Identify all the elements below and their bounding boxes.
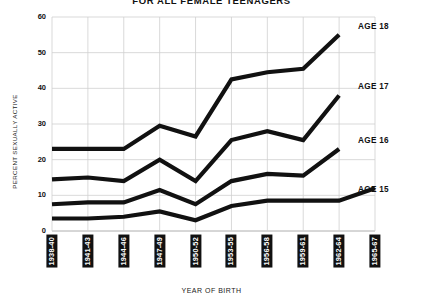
y-tick-label: 60 — [22, 13, 46, 21]
x-tick-label: 1947-49 — [154, 235, 165, 268]
x-tick-label: 1959-61 — [297, 235, 308, 268]
x-tick-label: 1941-43 — [82, 235, 93, 268]
y-tick-label: 30 — [22, 120, 46, 128]
y-tick-label: 40 — [22, 84, 46, 92]
y-tick-label: 20 — [22, 156, 46, 164]
x-tick-label: 1944-46 — [118, 235, 129, 268]
x-axis-title: YEAR OF BIRTH — [0, 287, 423, 294]
series-label-age-18: AGE 18 — [358, 22, 389, 31]
y-tick-label: 0 — [22, 227, 46, 235]
series-label-age-16: AGE 16 — [358, 136, 389, 145]
x-tick-label: 1938-40 — [46, 235, 57, 268]
x-tick-label: 1950-52 — [190, 235, 201, 268]
y-tick-label: 50 — [22, 49, 46, 57]
plot-area — [0, 0, 423, 301]
series-label-age-15: AGE 15 — [358, 185, 389, 194]
y-tick-label: 10 — [22, 191, 46, 199]
x-tick-label: 1953-55 — [225, 235, 236, 268]
x-tick-label: 1965-67 — [369, 235, 380, 268]
series-lines — [52, 35, 375, 220]
series-label-age-17: AGE 17 — [358, 82, 389, 91]
x-tick-label: 1956-58 — [261, 235, 272, 268]
chart-container: FOR ALL FEMALE TEENAGERS PERCENT SEXUALL… — [0, 0, 423, 301]
x-tick-label: 1962-64 — [333, 235, 344, 268]
